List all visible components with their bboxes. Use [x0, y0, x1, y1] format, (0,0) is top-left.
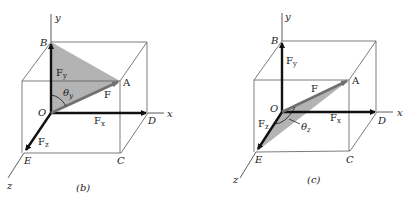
- point-a-label: A: [351, 75, 360, 86]
- point-e-label: E: [254, 154, 263, 165]
- z-axis-label: z: [232, 174, 239, 185]
- z-axis: [8, 153, 24, 178]
- y-axis-label: y: [284, 11, 291, 22]
- z-axis: [240, 152, 256, 178]
- x-axis-label: x: [167, 108, 173, 119]
- point-e-label: E: [23, 155, 32, 166]
- fz-label: Fz: [38, 136, 49, 149]
- z-axis-label: z: [6, 180, 13, 191]
- point-a-label: A: [122, 77, 131, 88]
- point-d-label: D: [377, 115, 386, 126]
- point-c-label: C: [346, 154, 354, 165]
- f-label: F: [311, 83, 318, 94]
- point-o-label: O: [38, 107, 46, 118]
- point-b-label: B: [39, 37, 47, 48]
- fx-label: Fx: [94, 115, 105, 128]
- figure-b: y x z B A O D E C Fy F Fx Fz θy (b): [6, 12, 173, 193]
- x-axis-label: x: [397, 107, 403, 118]
- figure-c: y x z B A O D E C Fy F Fx Fz θz (c): [232, 11, 403, 185]
- fz-label: Fz: [258, 118, 269, 131]
- point-b-label: B: [270, 35, 278, 46]
- point-o-label: O: [270, 103, 278, 114]
- figure-c-caption: (c): [307, 174, 321, 185]
- theta-z-label: θz: [301, 121, 311, 134]
- f-label: F: [104, 89, 111, 100]
- point-c-label: C: [117, 155, 125, 166]
- force-component-diagrams: y x z B A O D E C Fy F Fx Fz θy (b): [0, 0, 410, 200]
- fy-label: Fy: [286, 55, 297, 68]
- y-axis-label: y: [54, 12, 61, 23]
- point-d-label: D: [147, 115, 156, 126]
- figure-b-caption: (b): [76, 182, 90, 193]
- fx-label: Fx: [330, 112, 341, 125]
